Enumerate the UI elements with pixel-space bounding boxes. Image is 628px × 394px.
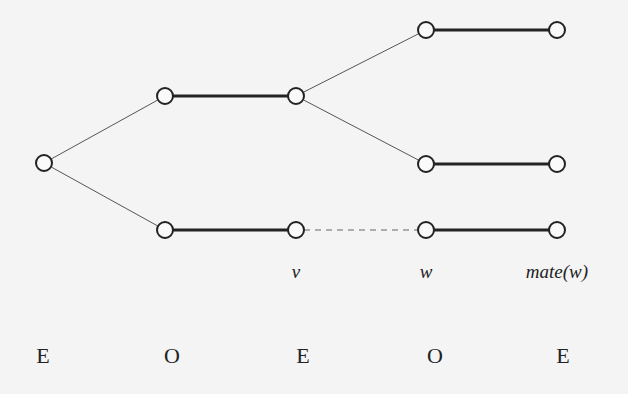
tree-edge-e1-o4: [303, 100, 419, 161]
vertex-node-mate-w: [549, 222, 565, 238]
vertex-label-w: w: [420, 261, 433, 282]
vertex-node-o3: [418, 22, 434, 38]
vertex-node-v: [288, 222, 304, 238]
tree-edge-root-o2: [51, 167, 158, 226]
vertex-label-mate-w: mate(w): [526, 261, 588, 283]
nodes-group: [36, 22, 565, 238]
vertex-labels-group: v w mate(w): [292, 261, 588, 283]
vertex-node-e3: [549, 22, 565, 38]
vertex-label-v: v: [292, 261, 301, 282]
vertex-node-e4: [549, 156, 565, 172]
parity-label-level-2: E: [296, 343, 309, 368]
tree-edge-root-o1: [51, 100, 158, 159]
vertex-node-w: [418, 222, 434, 238]
parity-label-level-1: O: [164, 343, 180, 368]
edges-group: [51, 30, 549, 230]
vertex-node-root: [36, 155, 52, 171]
alternating-tree-diagram: v w mate(w) E O E O E: [0, 0, 628, 394]
vertex-node-o1: [157, 88, 173, 104]
parity-label-level-4: E: [556, 343, 569, 368]
vertex-node-o2: [157, 222, 173, 238]
parity-label-level-3: O: [427, 343, 443, 368]
vertex-node-e1: [288, 88, 304, 104]
vertex-node-o4: [418, 156, 434, 172]
parity-label-level-0: E: [36, 343, 49, 368]
parity-row: E O E O E: [36, 343, 569, 368]
tree-edge-e1-o3: [303, 34, 419, 93]
